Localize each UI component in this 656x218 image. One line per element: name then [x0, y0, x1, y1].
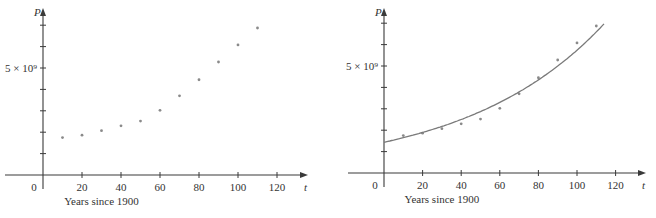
x-axis-caption: Years since 1900: [64, 195, 139, 207]
data-point: [178, 94, 181, 97]
data-point: [81, 134, 84, 137]
data-point: [460, 122, 463, 125]
y-axis-symbol: P: [374, 6, 382, 18]
y-tick-label: 5 × 10⁹: [5, 62, 37, 74]
right-scatter-with-fit-plot: 0204060801001205 × 10⁹PtYears since 1900: [346, 6, 646, 205]
data-point: [595, 25, 598, 28]
x-axis-arrow-icon: [638, 170, 646, 176]
y-axis-arrow-icon: [381, 8, 387, 16]
x-axis-symbol: t: [304, 181, 308, 193]
x-tick-label: 100: [230, 181, 247, 193]
x-tick-label: 120: [269, 181, 286, 193]
x-tick-label: 120: [607, 179, 624, 191]
data-point: [498, 107, 501, 110]
x-tick-label: 100: [569, 179, 586, 191]
left-scatter-plot: 0204060801001205 × 10⁹PtYears since 1900: [5, 6, 308, 207]
y-tick-label: 5 × 10⁹: [346, 60, 378, 72]
data-point: [61, 136, 64, 139]
data-point: [402, 134, 405, 137]
data-point: [556, 59, 559, 62]
data-point: [256, 27, 259, 30]
y-axis-symbol: P: [33, 6, 41, 18]
data-point: [217, 61, 220, 64]
x-tick-label: 40: [116, 181, 128, 193]
x-axis-symbol: t: [642, 179, 646, 191]
data-point: [120, 124, 123, 127]
x-axis-arrow-icon: [300, 172, 308, 178]
x-tick-label: 60: [494, 179, 506, 191]
y-axis-arrow-icon: [40, 8, 46, 16]
data-point: [139, 120, 142, 123]
x-tick-label: 20: [417, 179, 429, 191]
data-point: [576, 41, 579, 44]
x-axis-caption: Years since 1900: [405, 193, 480, 205]
data-point: [159, 109, 162, 112]
exponential-fit-curve: [384, 24, 604, 142]
x-tick-label: 20: [77, 181, 89, 193]
origin-label: 0: [372, 179, 378, 191]
population-charts: 0204060801001205 × 10⁹PtYears since 1900…: [0, 0, 656, 218]
data-point: [237, 43, 240, 46]
x-tick-label: 80: [533, 179, 545, 191]
data-point: [479, 118, 482, 121]
x-tick-label: 60: [155, 181, 167, 193]
data-point: [441, 127, 444, 130]
origin-label: 0: [31, 181, 37, 193]
data-point: [198, 78, 201, 81]
x-tick-label: 40: [456, 179, 468, 191]
x-tick-label: 80: [194, 181, 206, 193]
data-point: [100, 129, 103, 132]
